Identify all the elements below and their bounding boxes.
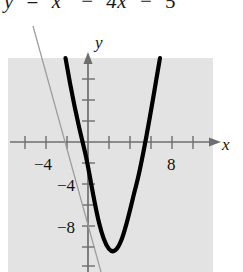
x-tick-label-neg4: −4: [34, 155, 53, 174]
x-axis-arrowhead: [209, 138, 221, 147]
x-axis-label: x: [221, 135, 230, 154]
y-axis-label: y: [93, 33, 103, 52]
x-tick-label-8: 8: [167, 155, 176, 174]
y-tick-label-neg4: −4: [57, 176, 76, 195]
plot-canvas: x y −4 8 −4 −8: [0, 0, 243, 272]
y-tick-label-neg8: −8: [57, 218, 75, 237]
math-figure-parabola: y = x2 − 4x − 5: [0, 0, 243, 272]
